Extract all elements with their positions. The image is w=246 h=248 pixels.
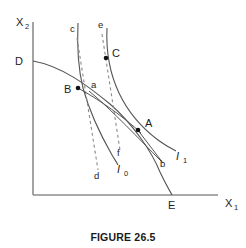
x-axis-label: X — [225, 197, 233, 209]
point-label-B: B — [64, 83, 71, 95]
point-label-E: E — [168, 199, 175, 211]
curve-label-I0: I — [117, 163, 120, 175]
axis-labels: X 2 X 1 — [16, 16, 238, 212]
label-e: e — [98, 19, 103, 30]
point-label-A: A — [145, 117, 153, 129]
curve-label-I1: I — [176, 150, 179, 162]
label-a: a — [91, 79, 97, 90]
price-line-cd — [77, 38, 98, 170]
y-axis-label: X — [16, 16, 24, 28]
label-f: f — [117, 147, 120, 158]
point-marker-A — [136, 128, 141, 133]
label-c: c — [70, 23, 75, 34]
point-label-D: D — [15, 55, 23, 67]
label-b: b — [160, 158, 165, 169]
x-axis-label-subscript: 1 — [234, 203, 238, 212]
point-marker-C — [104, 56, 109, 61]
point-labels: D E A B C — [15, 47, 175, 211]
curve-endpoint-labels: a b c d e f — [70, 19, 165, 181]
curve-label-I1-subscript: 1 — [183, 156, 187, 165]
point-marker-B — [76, 86, 81, 91]
y-axis-label-subscript: 2 — [25, 22, 29, 31]
figure-26-5: X 2 X 1 D E A B — [0, 0, 246, 248]
point-label-C: C — [112, 47, 120, 59]
curve-label-I0-subscript: 0 — [124, 169, 128, 178]
figure-caption: FIGURE 26.5 — [0, 231, 246, 243]
label-d: d — [94, 170, 99, 181]
diagram-canvas: X 2 X 1 D E A B — [0, 0, 246, 248]
indifference-curve-labels: I 0 I 1 — [117, 150, 187, 178]
